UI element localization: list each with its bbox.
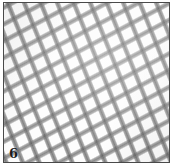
mesh-warp-strands — [3, 2, 170, 163]
mesh-weft-fine-strands — [3, 2, 170, 163]
mesh-sample-panel: 6 — [3, 2, 170, 163]
scan-shading-overlay — [4, 3, 169, 162]
figure-root: 6 — [0, 0, 183, 167]
mesh-weft-strands — [3, 2, 170, 163]
specimen-number-label: 6 — [9, 147, 18, 160]
mesh-warp-fine-strands — [3, 2, 170, 163]
